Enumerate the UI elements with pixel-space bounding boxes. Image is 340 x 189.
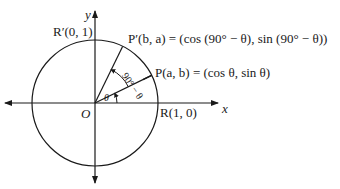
y-axis-label: y: [83, 7, 91, 22]
point-P-label: P(a, b) = (cos θ, sin θ): [155, 65, 270, 80]
point-P-prime-label: P′(b, a) = (cos (90° − θ), sin (90° − θ)…: [128, 31, 327, 46]
theta-angle-arc: [115, 93, 117, 103]
point-R-label: R(1, 0): [160, 105, 197, 120]
unit-circle-diagram: y x O R′(0, 1) R(1, 0) P′(b, a) = (cos (…: [0, 0, 340, 189]
origin-label: O: [81, 106, 91, 121]
point-P-tick: [143, 75, 152, 79]
point-R-prime-label: R′(0, 1): [53, 24, 93, 39]
theta-label: θ: [104, 92, 109, 103]
complement-angle-label: 90° − θ: [120, 71, 146, 102]
x-axis-label: x: [221, 101, 228, 116]
